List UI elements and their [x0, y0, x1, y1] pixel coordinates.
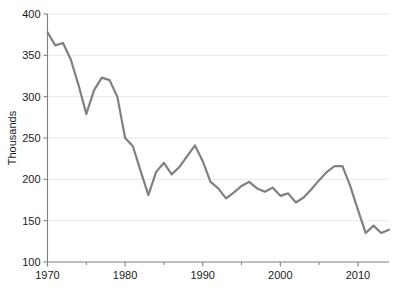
- y-tick-label: 100: [22, 256, 40, 268]
- y-tick-label: 300: [22, 91, 40, 103]
- x-tick-label: 1970: [35, 269, 59, 281]
- x-tick-label: 2010: [346, 269, 370, 281]
- x-axis-ticks: 19701980199020002010: [35, 262, 370, 281]
- x-tick-label: 1990: [190, 269, 214, 281]
- x-tick-label: 2000: [268, 269, 292, 281]
- y-tick-label: 250: [22, 132, 40, 144]
- y-axis-title: Thousands: [6, 110, 18, 165]
- y-tick-label: 350: [22, 49, 40, 61]
- y-tick-label: 400: [22, 8, 40, 20]
- chart-canvas: 1001502002503003504001970198019902000201…: [0, 0, 398, 295]
- y-tick-label: 200: [22, 173, 40, 185]
- y-tick-label: 150: [22, 215, 40, 227]
- x-tick-label: 1980: [113, 269, 137, 281]
- line-chart-figure: 1001502002503003504001970198019902000201…: [0, 0, 398, 295]
- data-series-line: [48, 32, 390, 233]
- y-axis-ticks: 100150200250300350400: [22, 8, 47, 268]
